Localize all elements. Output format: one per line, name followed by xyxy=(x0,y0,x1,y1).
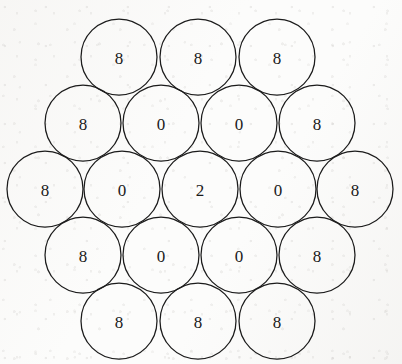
circle-label-r4c4: 8 xyxy=(313,247,322,266)
circle-label-r3c2: 0 xyxy=(118,181,127,200)
circle-label-r4c1: 8 xyxy=(79,247,88,266)
circle-label-r4c2: 0 xyxy=(157,247,166,266)
circle-label-r3c1: 8 xyxy=(41,181,50,200)
circle-label-r2c4: 8 xyxy=(313,115,322,134)
circle-label-r3c3: 2 xyxy=(196,181,205,200)
circle-label-r5c3: 8 xyxy=(273,313,282,332)
circle-packing-figure: 8888008802088008888 xyxy=(0,0,402,364)
circle-label-r1c1: 8 xyxy=(115,49,124,68)
circle-label-r2c2: 0 xyxy=(157,115,166,134)
label-group: 8888008802088008888 xyxy=(41,49,360,332)
circle-label-r1c2: 8 xyxy=(194,49,203,68)
circle-label-r4c3: 0 xyxy=(235,247,244,266)
circle-label-r3c4: 0 xyxy=(274,181,283,200)
circle-label-r2c3: 0 xyxy=(235,115,244,134)
circle-packing-canvas: 8888008802088008888 xyxy=(0,0,402,364)
circle-label-r5c1: 8 xyxy=(115,313,124,332)
circle-label-r2c1: 8 xyxy=(79,115,88,134)
circle-label-r1c3: 8 xyxy=(273,49,282,68)
circle-label-r5c2: 8 xyxy=(194,313,203,332)
circle-label-r3c5: 8 xyxy=(351,181,360,200)
